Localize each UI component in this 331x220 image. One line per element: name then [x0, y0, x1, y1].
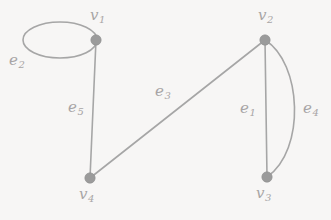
edge-e5-line: [90, 40, 96, 178]
graph-canvas: [0, 0, 331, 220]
edge-e1-line: [265, 40, 267, 177]
edge-label-e5: e5: [68, 100, 83, 115]
edge-label-e2-base: e: [9, 51, 18, 69]
vertex-label-v2-sub: 2: [267, 14, 273, 25]
vertex-v3: [262, 172, 272, 182]
vertex-v4: [85, 173, 95, 183]
vertex-label-v3-sub: 3: [265, 192, 271, 203]
edge-label-e2-sub: 2: [18, 59, 24, 70]
edge-label-e4-sub: 4: [312, 107, 318, 118]
vertex-label-v3-base: v: [256, 184, 264, 202]
edge-label-e3: e3: [155, 84, 170, 99]
vertex-label-v2: v2: [258, 8, 273, 23]
edge-label-e5-base: e: [68, 98, 77, 116]
edge-label-e1-base: e: [240, 99, 249, 117]
edge-label-e4-base: e: [303, 99, 312, 117]
edge-label-e1: e1: [240, 101, 255, 116]
vertex-label-v1-sub: 1: [99, 14, 105, 25]
vertex-label-v3: v3: [256, 186, 271, 201]
edge-e2-self-loop: [23, 22, 97, 58]
edge-label-e3-sub: 3: [164, 90, 170, 101]
edge-label-e4: e4: [303, 101, 318, 116]
edge-label-e1-sub: 1: [249, 107, 255, 118]
vertex-label-v4: v4: [79, 187, 94, 202]
vertex-label-v4-base: v: [79, 185, 87, 203]
graph-diagram: v1 v2 v3 v4 e2 e5 e3 e1 e4: [0, 0, 331, 220]
edge-e4-curve: [265, 40, 295, 177]
vertex-label-v1: v1: [90, 8, 105, 23]
edge-label-e3-base: e: [155, 82, 164, 100]
vertex-v1: [91, 35, 101, 45]
vertex-label-v2-base: v: [258, 6, 266, 24]
vertex-label-v4-sub: 4: [88, 193, 94, 204]
edge-label-e5-sub: 5: [77, 106, 83, 117]
vertex-label-v1-base: v: [90, 6, 98, 24]
edge-e3-line: [90, 40, 265, 178]
edge-label-e2: e2: [9, 53, 24, 68]
vertex-v2: [260, 35, 270, 45]
